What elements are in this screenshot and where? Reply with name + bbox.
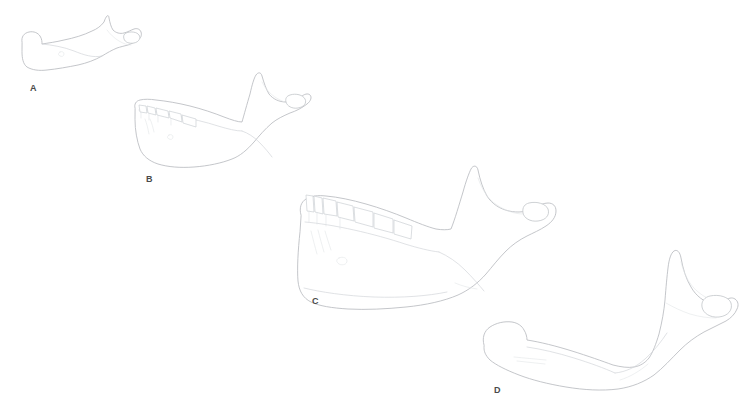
- specimen-label-b: B: [146, 175, 153, 184]
- mandible-plate-svg: [0, 0, 748, 418]
- mandible-d-outline: [483, 250, 738, 390]
- mandible-d-condyle: [702, 295, 732, 317]
- mandible-c: [298, 166, 556, 309]
- tooth: [323, 198, 337, 216]
- specimen-label-a: A: [30, 84, 37, 93]
- mandible-a-condyle: [124, 32, 140, 43]
- figure-plate: A B C D: [0, 0, 748, 418]
- specimen-label-d: D: [494, 386, 501, 395]
- mandible-c-outline: [298, 166, 556, 309]
- mandible-b-condyle: [286, 94, 306, 108]
- tooth: [314, 196, 323, 214]
- mandible-b: [135, 73, 311, 168]
- mandible-c-condyle: [523, 202, 549, 221]
- mandible-a: [22, 16, 142, 71]
- tooth: [306, 195, 314, 212]
- mandible-b-outline: [135, 73, 311, 168]
- specimen-label-c: C: [312, 297, 319, 306]
- tooth: [139, 105, 147, 113]
- mandible-d: [483, 250, 738, 390]
